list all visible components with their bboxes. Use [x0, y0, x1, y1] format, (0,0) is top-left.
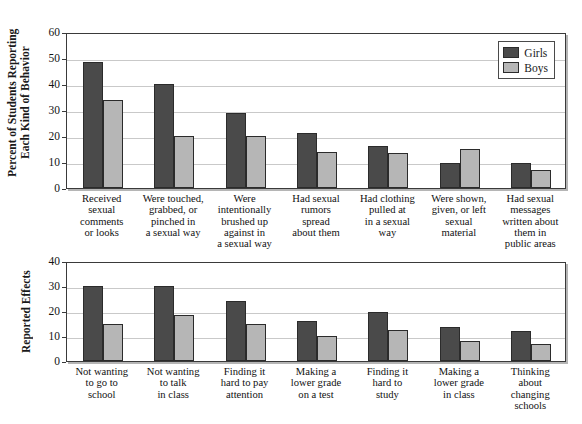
bar-girls	[83, 286, 103, 361]
bar-girls	[297, 133, 317, 188]
legend-item-girls[interactable]: Girls	[503, 45, 548, 60]
y-tick-label: 30	[0, 281, 60, 292]
x-axis-category-label: Received sexual comments or looks	[62, 193, 141, 238]
legend-behaviors[interactable]: Girls Boys	[498, 41, 555, 79]
bar-girls	[511, 331, 531, 361]
gridline	[67, 288, 565, 289]
bar-boys	[460, 341, 480, 361]
plot-area-effects	[66, 262, 566, 362]
x-axis-category-label: Not wanting to go to school	[62, 366, 141, 400]
x-axis-category-label: Finding it hard to pay attention	[205, 366, 284, 400]
x-axis-category-label: Making a lower grade in class	[419, 366, 498, 400]
gridline	[67, 313, 565, 314]
legend-swatch-girls	[503, 47, 519, 58]
bar-girls	[226, 113, 246, 188]
y-tick-label: 50	[0, 53, 60, 64]
bar-girls	[440, 327, 460, 361]
bar-girls	[440, 163, 460, 188]
bar-boys	[246, 136, 266, 188]
bar-boys	[531, 170, 551, 188]
x-axis-category-label: Not wanting to talk in class	[133, 366, 212, 400]
bar-girls	[154, 286, 174, 361]
x-axis-category-label: Finding it hard to study	[348, 366, 427, 400]
y-tick-label: 40	[0, 256, 60, 267]
bar-boys	[174, 315, 194, 361]
x-axis-category-label: Thinking about changing schools	[491, 366, 570, 411]
legend-item-boys[interactable]: Boys	[503, 60, 548, 75]
y-tick-mark	[62, 189, 66, 190]
bar-boys	[460, 149, 480, 188]
bar-boys	[317, 336, 337, 361]
x-axis-category-label: Had clothing pulled at in a sexual way	[348, 193, 427, 238]
y-tick-label: 60	[0, 27, 60, 38]
gridline	[67, 60, 565, 61]
bar-boys	[388, 330, 408, 361]
bar-boys	[103, 100, 123, 188]
y-tick-label: 0	[0, 183, 60, 194]
bar-girls	[368, 312, 388, 361]
bar-girls	[226, 301, 246, 361]
y-tick-mark	[62, 362, 66, 363]
legend-label-girls: Girls	[524, 47, 547, 59]
bar-boys	[531, 344, 551, 362]
bar-boys	[246, 324, 266, 362]
bar-boys	[103, 324, 123, 362]
bar-boys	[317, 152, 337, 188]
bar-girls	[368, 146, 388, 188]
bar-boys	[174, 136, 194, 188]
x-axis-category-label: Were touched, grabbed, or pinched in a s…	[133, 193, 212, 238]
y-tick-label: 0	[0, 356, 60, 367]
bar-boys	[388, 153, 408, 188]
legend-swatch-boys	[503, 62, 519, 73]
gridline	[67, 112, 565, 113]
bar-girls	[83, 62, 103, 188]
x-axis-category-label: Making a lower grade on a test	[276, 366, 355, 400]
x-axis-category-label: Had sexual rumors spread about them	[276, 193, 355, 238]
bar-girls	[297, 321, 317, 361]
x-axis-category-label: Had sexual messages written about them i…	[491, 193, 570, 249]
y-tick-label: 20	[0, 306, 60, 317]
y-tick-label: 30	[0, 105, 60, 116]
x-axis-category-label: Were shown, given, or left sexual materi…	[419, 193, 498, 238]
y-tick-label: 20	[0, 131, 60, 142]
y-tick-label: 40	[0, 79, 60, 90]
y-tick-label: 10	[0, 331, 60, 342]
x-axis-category-label: Were intentionally brushed up against in…	[205, 193, 284, 249]
gridline	[67, 86, 565, 87]
plot-area-behaviors: Girls Boys	[66, 33, 566, 189]
bar-girls	[511, 163, 531, 188]
y-tick-label: 10	[0, 157, 60, 168]
bar-girls	[154, 84, 174, 188]
legend-label-boys: Boys	[524, 62, 548, 74]
